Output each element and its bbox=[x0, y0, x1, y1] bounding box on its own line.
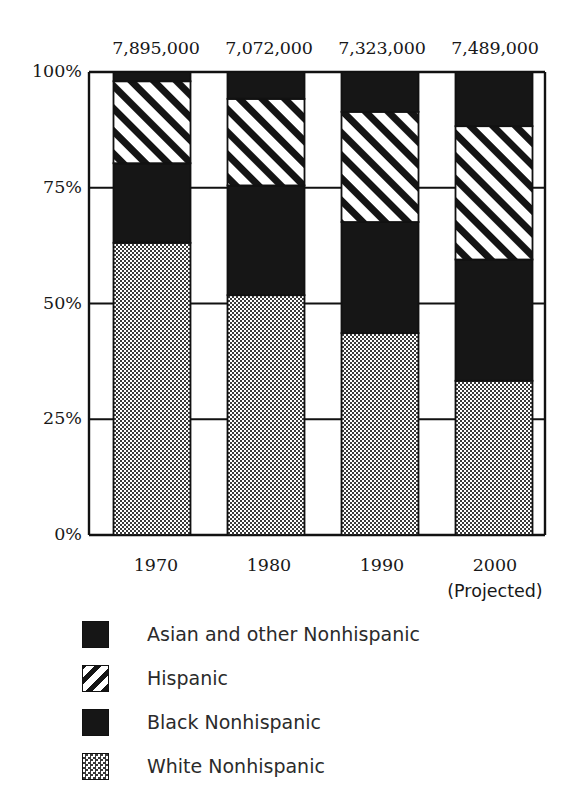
bar-segment bbox=[342, 112, 419, 222]
bar-total-2000: 7,489,000 bbox=[410, 38, 580, 58]
bar-segment bbox=[456, 72, 533, 126]
bar-segment bbox=[228, 295, 305, 535]
legend-item-black[interactable]: Black Nonhispanic bbox=[82, 700, 522, 744]
ytick-75: 75% bbox=[0, 177, 82, 197]
bar-segment bbox=[342, 333, 419, 535]
bar-segment bbox=[456, 381, 533, 535]
ytick-25: 25% bbox=[0, 408, 82, 428]
legend-swatch-asian-icon bbox=[82, 621, 109, 648]
bar-segment bbox=[114, 81, 191, 163]
legend: Asian and other Nonhispanic Hispanic Bla… bbox=[82, 612, 522, 788]
ytick-50: 50% bbox=[0, 293, 82, 313]
legend-item-hispanic[interactable]: Hispanic bbox=[82, 656, 522, 700]
bar-segment bbox=[342, 72, 419, 112]
legend-item-white[interactable]: White Nonhispanic bbox=[82, 744, 522, 788]
ytick-100: 100% bbox=[0, 61, 82, 81]
legend-item-asian[interactable]: Asian and other Nonhispanic bbox=[82, 612, 522, 656]
legend-label-white: White Nonhispanic bbox=[147, 755, 325, 777]
bar-segment bbox=[456, 126, 533, 259]
bar-segment bbox=[228, 185, 305, 295]
bar-segment bbox=[114, 243, 191, 535]
ytick-0: 0% bbox=[0, 524, 82, 544]
legend-label-black: Black Nonhispanic bbox=[147, 711, 321, 733]
bar-segment bbox=[456, 260, 533, 381]
xtick-2000: 2000 bbox=[420, 555, 570, 575]
legend-swatch-white-icon bbox=[82, 753, 109, 780]
legend-label-asian: Asian and other Nonhispanic bbox=[147, 623, 420, 645]
bar-segment bbox=[342, 222, 419, 333]
bar-segment bbox=[114, 72, 191, 81]
bar-segment bbox=[228, 99, 305, 186]
stacked-bar-chart: 7,895,000 7,072,000 7,323,000 7,489,000 … bbox=[0, 0, 585, 806]
xtick-2000-sublabel: (Projected) bbox=[420, 581, 570, 601]
bar-segment bbox=[114, 163, 191, 243]
legend-swatch-black-icon bbox=[82, 709, 109, 736]
legend-label-hispanic: Hispanic bbox=[147, 667, 228, 689]
legend-swatch-hispanic-icon bbox=[82, 665, 109, 692]
bar-segment bbox=[228, 72, 305, 99]
